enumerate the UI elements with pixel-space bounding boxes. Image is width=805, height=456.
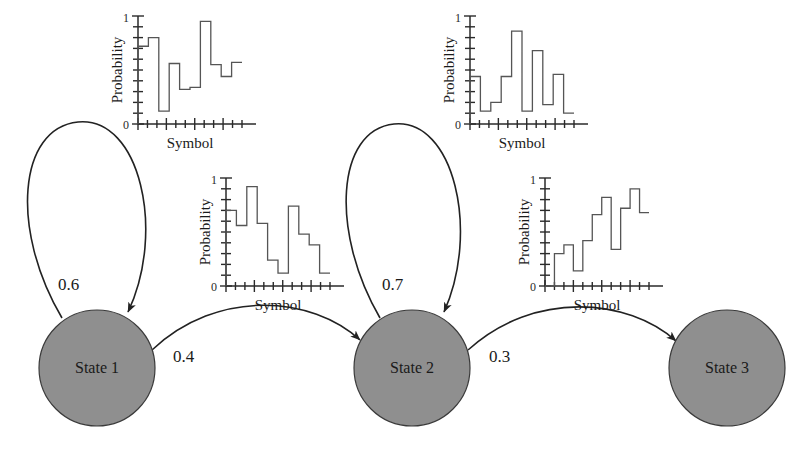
state-nodes: State 1 State 2 State 3 [39, 310, 785, 426]
y-axis-title: Probability [441, 36, 457, 103]
y-tick-label-min: 0 [455, 118, 461, 132]
state-node-1[interactable]: State 1 [39, 310, 155, 426]
x-axis-title: Symbol [574, 297, 621, 313]
self-loop-state-1 [28, 122, 146, 318]
state-node-3[interactable]: State 3 [669, 310, 785, 426]
x-axis-title: Symbol [499, 135, 546, 151]
chart-chart-state1-a: 01SymbolProbability [109, 11, 256, 151]
chart-chart-state1-b: 01SymbolProbability [197, 173, 344, 313]
weight-label-0-7: 0.7 [382, 275, 404, 294]
y-axis-title: Probability [197, 198, 213, 265]
figure-canvas: State 1 State 2 State 3 0.6 0.4 0.7 0.3 … [0, 0, 805, 456]
histogram-outline [138, 21, 242, 124]
y-tick-label-min: 0 [123, 118, 129, 132]
state-1-label: State 1 [75, 359, 119, 376]
x-axis-title: Symbol [255, 297, 302, 313]
self-loop-state-2 [346, 124, 460, 318]
y-tick-label-max: 1 [455, 11, 461, 25]
histogram-outline [470, 31, 574, 124]
weight-label-0-3: 0.3 [489, 347, 510, 366]
state-3-label: State 3 [705, 359, 749, 376]
edge-state-2-to-state-3 [468, 307, 676, 350]
state-node-2[interactable]: State 2 [354, 310, 470, 426]
y-tick-label-min: 0 [530, 280, 536, 294]
y-axis-title: Probability [516, 198, 532, 265]
weight-label-0-4: 0.4 [173, 347, 195, 366]
transition-edges [28, 122, 676, 350]
y-tick-label-max: 1 [123, 11, 129, 25]
chart-chart-state2-a: 01SymbolProbability [441, 11, 588, 151]
histogram-outline [545, 189, 649, 286]
y-axis-title: Probability [109, 36, 125, 103]
emission-probability-charts: 01SymbolProbability01SymbolProbability01… [109, 11, 663, 313]
y-tick-label-max: 1 [211, 173, 217, 187]
y-tick-label-max: 1 [530, 173, 536, 187]
weight-label-0-6: 0.6 [58, 275, 79, 294]
state-diagram: State 1 State 2 State 3 0.6 0.4 0.7 0.3 … [0, 0, 805, 456]
chart-chart-state2-b: 01SymbolProbability [516, 173, 663, 313]
x-axis-title: Symbol [167, 135, 214, 151]
state-2-label: State 2 [390, 359, 434, 376]
histogram-outline [226, 187, 330, 286]
y-tick-label-min: 0 [211, 280, 217, 294]
